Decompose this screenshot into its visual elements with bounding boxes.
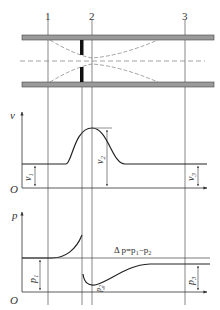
velocity-curve	[22, 128, 207, 164]
section-lines	[48, 20, 185, 305]
pressure-axis-label: p	[11, 209, 18, 221]
section-label-1: 1	[45, 10, 51, 22]
pressure-origin-label: O	[10, 294, 18, 306]
velocity-origin-label: O	[10, 183, 18, 195]
delta-p-label: Δ p=p1−p2	[114, 245, 151, 256]
orifice-plate-top	[80, 40, 84, 55]
streamline-top	[50, 40, 158, 58]
v2-label: v2	[94, 156, 107, 164]
orifice-plate-bottom	[80, 67, 84, 82]
orifice-flow-diagram: 1 2 3 v O v1 v2 v3 p O Δ p=p1−p2	[0, 0, 220, 310]
v1-label: v1	[22, 173, 35, 181]
pressure-plot: p O Δ p=p1−p2 p1 p2 p3	[10, 209, 210, 306]
v3-label: v3	[185, 173, 198, 181]
velocity-plot: v O v1 v2 v3	[10, 109, 207, 195]
section-label-2: 2	[89, 10, 95, 22]
p3-label: p3	[185, 276, 198, 286]
pipe-top-wall	[22, 35, 214, 40]
p2-label: p2	[94, 285, 104, 293]
pressure-curve-upstream	[22, 235, 82, 258]
p1-label: p1	[27, 275, 40, 285]
pipe-bottom-wall	[22, 82, 214, 87]
section-label-3: 3	[182, 10, 188, 22]
velocity-axis-label: v	[10, 109, 15, 121]
streamline-bottom	[50, 64, 158, 82]
